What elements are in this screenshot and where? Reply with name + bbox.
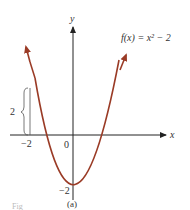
- x-axis-label: x: [170, 130, 174, 140]
- function-label: f(x) = x² − 2: [121, 33, 171, 43]
- x-tick-neg2: −2: [21, 139, 32, 149]
- y-tick-neg2: −2: [59, 186, 70, 196]
- origin-label: 0: [64, 140, 69, 150]
- y-axis-label: y: [70, 14, 74, 24]
- brace-label: 2: [10, 107, 15, 117]
- fig-prefix: Fig: [12, 203, 23, 210]
- figure-caption: (a): [67, 200, 77, 209]
